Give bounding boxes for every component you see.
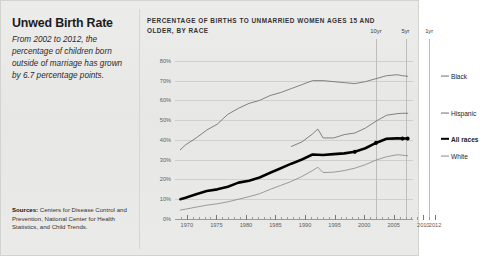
plot-area: 10yr5yr1yr 19701975198019851990199520002… — [175, 51, 413, 219]
x-tick — [364, 215, 365, 220]
y-tick-label: 10% — [160, 196, 171, 202]
x-tick — [400, 217, 401, 220]
x-tick — [352, 217, 353, 220]
x-tick-label: 2000 — [358, 222, 370, 228]
x-tick — [270, 217, 271, 220]
x-tick — [258, 217, 259, 220]
x-tick — [358, 217, 359, 220]
x-tick — [275, 215, 276, 220]
data-point-1yr — [401, 136, 405, 140]
annotation-label-5yr: 5yr — [402, 28, 410, 34]
series-leader-all-races — [441, 137, 449, 139]
chart-panel: PERCENTAGE OF BIRTHS TO UNMARRIED WOMEN … — [139, 1, 418, 255]
x-tick — [305, 215, 306, 220]
x-tick — [222, 217, 223, 220]
x-tick-label: 1980 — [240, 222, 252, 228]
y-tick-label: 60% — [160, 97, 171, 103]
x-tick — [341, 217, 342, 220]
x-tick — [406, 217, 407, 220]
x-tick — [311, 217, 312, 220]
y-tick-label: 50% — [160, 117, 171, 123]
series-label-all-races: All races — [451, 135, 479, 142]
x-tick — [382, 217, 383, 220]
x-tick-label: 1975 — [210, 222, 222, 228]
series-line-black — [180, 75, 407, 150]
x-tick — [394, 215, 395, 220]
x-tick-label: 2010 — [417, 222, 429, 228]
x-tick — [181, 217, 182, 220]
x-tick-label: 2005 — [387, 222, 399, 228]
series-label-hispanic: Hispanic — [451, 110, 476, 117]
data-point-5yr — [374, 141, 378, 145]
x-tick — [281, 217, 282, 220]
x-tick-label: 2012 — [429, 222, 441, 228]
series-line-hispanic — [291, 113, 407, 146]
x-tick-label: 1985 — [269, 222, 281, 228]
x-tick — [429, 217, 430, 220]
sources-note: Sources: Centers for Disease Control and… — [12, 206, 132, 232]
x-tick — [376, 217, 377, 220]
y-tick-label: 40% — [160, 137, 171, 143]
plot-wrapper: 0%10%20%30%40%50%60%70%80% 10yr5yr1yr 19… — [147, 51, 413, 219]
x-tick — [240, 217, 241, 220]
series-leader-black — [441, 76, 449, 77]
series-leader-hispanic — [441, 113, 449, 114]
annotation-label-10yr: 10yr — [370, 28, 381, 34]
x-tick — [317, 217, 318, 220]
chart-title: PERCENTAGE OF BIRTHS TO UNMARRIED WOMEN … — [147, 16, 377, 36]
x-tick — [199, 217, 200, 220]
x-tick — [205, 217, 206, 220]
x-tick — [417, 217, 418, 220]
x-tick — [234, 217, 235, 220]
page-title: Unwed Birth Rate — [12, 17, 132, 31]
y-axis-labels: 0%10%20%30%40%50%60%70%80% — [147, 51, 173, 219]
y-tick-label: 0% — [163, 216, 171, 222]
x-tick — [370, 217, 371, 220]
x-tick — [335, 215, 336, 220]
x-tick — [193, 217, 194, 220]
series-labels: BlackHispanicAll racesWhite — [441, 51, 483, 219]
x-tick — [329, 217, 330, 220]
y-tick-label: 80% — [160, 58, 171, 64]
x-tick — [228, 217, 229, 220]
x-tick — [252, 217, 253, 220]
x-axis-labels: 1970197519801985199019952000200520102012 — [175, 222, 413, 232]
x-tick — [388, 217, 389, 220]
series-label-black: Black — [451, 73, 467, 80]
x-tick — [299, 217, 300, 220]
x-tick — [264, 217, 265, 220]
x-tick — [287, 217, 288, 220]
x-tick — [323, 217, 324, 220]
x-tick — [187, 215, 188, 220]
y-tick-label: 20% — [160, 176, 171, 182]
y-tick-label: 70% — [160, 78, 171, 84]
x-tick — [411, 217, 412, 220]
x-tick — [423, 215, 424, 220]
x-tick-label: 1995 — [328, 222, 340, 228]
series-leader-white — [441, 155, 449, 156]
annotation-label-1yr: 1yr — [425, 28, 433, 34]
subtitle-text: From 2002 to 2012, the percentage of chi… — [12, 34, 132, 82]
x-tick — [210, 217, 211, 220]
series-label-white: White — [451, 152, 468, 159]
sources-label: Sources: — [12, 206, 38, 213]
data-point-10yr — [353, 150, 357, 154]
x-tick-label: 1970 — [181, 222, 193, 228]
x-tick — [293, 217, 294, 220]
annotation-line-1yr — [429, 39, 430, 219]
series-lines — [175, 51, 413, 219]
x-axis-ticks — [175, 215, 413, 220]
x-tick — [435, 215, 436, 220]
data-point-end — [406, 136, 410, 140]
x-tick — [246, 215, 247, 220]
y-tick-label: 30% — [160, 157, 171, 163]
x-tick-label: 1990 — [299, 222, 311, 228]
left-text-panel: Unwed Birth Rate From 2002 to 2012, the … — [1, 1, 139, 256]
x-tick — [216, 215, 217, 220]
x-tick — [346, 217, 347, 220]
series-line-all-races — [180, 138, 407, 199]
